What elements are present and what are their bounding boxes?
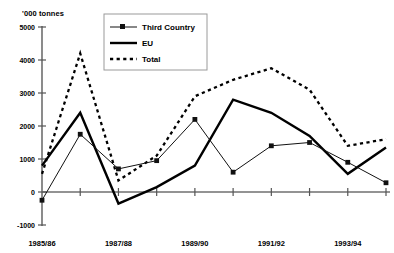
x-tick-label-1991-92: 1991/92 — [258, 239, 285, 248]
data-point-third-country-1990-91 — [231, 170, 236, 175]
line-chart: '000 tonnes Third Country EU — [0, 0, 394, 253]
y-tick-label-0: 0 — [31, 189, 35, 196]
legend-label-eu: EU — [142, 39, 153, 48]
data-point-third-country-1994-95 — [384, 180, 389, 185]
x-tick-label-1987-88: 1987/88 — [105, 239, 132, 248]
legend: Third Country EU Total — [104, 14, 207, 70]
y-axis-title: '000 tonnes — [22, 9, 64, 18]
legend-label-total: Total — [142, 55, 161, 64]
y-tick-label-1000: 1000 — [19, 156, 35, 163]
y-tick-label-5000: 5000 — [19, 24, 35, 31]
y-tick-label-4000: 4000 — [19, 57, 35, 64]
legend-label-third-country: Third Country — [142, 23, 195, 32]
data-point-third-country-1992-93 — [307, 140, 312, 145]
data-point-third-country-1988-89 — [154, 158, 159, 163]
x-tick-label-1993-94: 1993/94 — [334, 239, 362, 248]
legend-marker-third-country — [120, 24, 125, 29]
x-tick-label-1985-86: 1985/86 — [28, 239, 55, 248]
chart-container: '000 tonnes Third Country EU — [0, 0, 394, 253]
y-tick-label-3000: 3000 — [19, 90, 35, 97]
y-tick-label--1000: -1000 — [17, 222, 35, 229]
data-point-third-country-1993-94 — [345, 160, 350, 165]
data-point-third-country-1991-92 — [269, 143, 274, 148]
data-point-third-country-1989-90 — [192, 117, 197, 122]
data-point-third-country-1986-87 — [78, 132, 83, 137]
data-point-third-country-1987-88 — [116, 167, 121, 172]
y-tick-label-2000: 2000 — [19, 123, 35, 130]
data-point-third-country-1985-86 — [40, 198, 45, 203]
x-tick-label-1989-90: 1989/90 — [181, 239, 208, 248]
